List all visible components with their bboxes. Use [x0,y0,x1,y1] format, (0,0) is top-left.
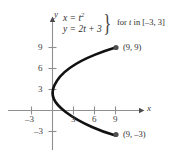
y-tick-label-neg3: –3 [34,127,43,136]
y-tick-label-3: 3 [38,85,43,94]
parametric-curve-figure: x = t2 y = 2t + 3 } for t in [–3, 3] x y… [0,0,185,158]
equation-y: y = 2t + 3 [63,25,102,35]
equation-x: x = t2 [63,12,84,24]
point-label-lower: (9, –3) [123,130,146,139]
brace-icon: } [103,10,111,36]
y-tick-label-9: 9 [38,43,43,52]
y-axis-label: y [54,10,58,19]
x-axis-label: x [147,104,151,113]
point-label-upper: (9, 9) [123,43,141,52]
endpoint-dot-lower [113,132,118,137]
parametric-curve [53,48,116,136]
y-tick-label-6: 6 [38,64,43,73]
x-tick-label-neg3: –3 [25,115,34,124]
domain-text: for t in [–3, 3] [117,18,165,27]
x-tick-label-6: 6 [92,115,97,124]
x-tick-label-9: 9 [113,115,118,124]
x-tick-label-3: 3 [71,115,76,124]
endpoint-dot-upper [113,45,118,50]
